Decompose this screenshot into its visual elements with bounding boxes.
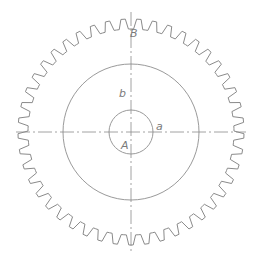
label-a: a [156, 120, 163, 133]
gear-drawing: B b a A [0, 0, 262, 258]
label-A: A [120, 139, 129, 152]
gear-diagram: B b a A [0, 0, 262, 258]
label-b: b [119, 87, 126, 100]
label-B: B [130, 27, 138, 40]
